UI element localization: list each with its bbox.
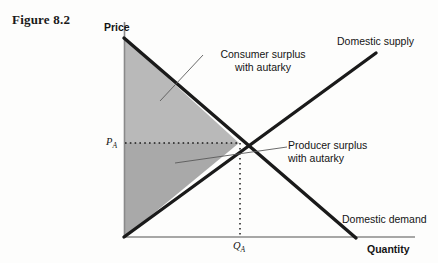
producer-surplus-label-line2: with autarky — [288, 152, 344, 164]
equilibrium-price-tick-label: PA — [106, 136, 117, 150]
figure-container: Figure 8.2 Price Quantity Consumer surpl… — [0, 0, 438, 263]
figure-title: Figure 8.2 — [12, 12, 70, 28]
producer-surplus-label: Producer surplus with autarky — [288, 139, 410, 164]
price-tick-subscript: A — [112, 141, 117, 150]
quantity-tick-subscript: A — [241, 245, 246, 254]
consumer-surplus-label: Consumer surplus with autarky — [204, 48, 322, 73]
domestic-supply-label: Domestic supply — [337, 35, 414, 48]
x-axis-title: Quantity — [367, 243, 410, 255]
consumer-surplus-label-line1: Consumer surplus — [220, 48, 305, 60]
producer-surplus-label-line1: Producer surplus — [288, 139, 367, 151]
equilibrium-quantity-tick-label: QA — [233, 240, 245, 254]
consumer-surplus-label-line2: with autarky — [235, 61, 291, 73]
quantity-tick-symbol: Q — [233, 240, 241, 251]
y-axis-title: Price — [104, 21, 130, 33]
domestic-demand-label: Domestic demand — [342, 213, 427, 226]
